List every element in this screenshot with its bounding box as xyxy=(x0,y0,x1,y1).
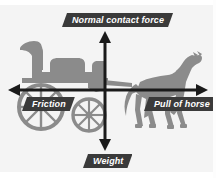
top-margin-strip xyxy=(0,0,216,5)
arrowhead-up xyxy=(99,31,111,43)
arrowhead-right xyxy=(196,84,208,96)
bottom-margin-strip xyxy=(0,172,216,178)
arrowhead-down xyxy=(99,139,111,151)
arrowhead-left xyxy=(8,84,20,96)
force-diagram: Normal contact force Friction Pull of ho… xyxy=(0,0,216,178)
force-label-normal-contact-force: Normal contact force xyxy=(62,13,173,27)
force-label-pull-of-horse: Pull of horse xyxy=(144,97,216,111)
force-label-friction: Friction xyxy=(22,97,75,111)
carriage-front-wheel xyxy=(73,99,105,131)
right-margin-strip xyxy=(213,0,216,178)
force-label-weight: Weight xyxy=(83,154,132,168)
